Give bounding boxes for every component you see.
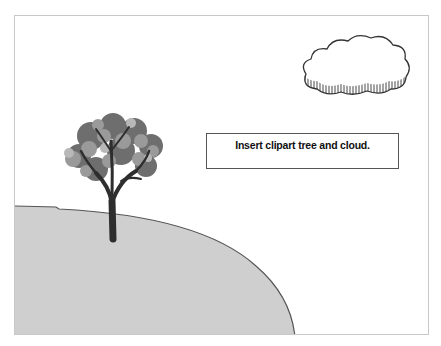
instruction-text: Insert clipart tree and cloud. <box>207 139 398 151</box>
instruction-textbox[interactable]: Insert clipart tree and cloud. <box>206 133 399 169</box>
scene-drawing <box>15 16 429 335</box>
hill-shape[interactable] <box>15 206 295 335</box>
cloud-clipart[interactable] <box>303 36 409 95</box>
slide-canvas[interactable]: Insert clipart tree and cloud. <box>14 15 429 335</box>
